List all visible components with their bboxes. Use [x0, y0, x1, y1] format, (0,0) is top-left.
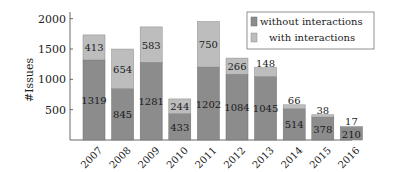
- value-label-without: 378: [313, 124, 332, 135]
- value-label-without: 1084: [224, 102, 249, 113]
- value-label-with: 583: [142, 40, 161, 51]
- value-label-without: 433: [170, 122, 189, 133]
- chart-canvas: 500100015002000#Issues131941320078456542…: [0, 0, 399, 172]
- value-label-without: 210: [342, 129, 361, 140]
- x-tick-label: 2015: [307, 145, 333, 171]
- x-tick-label: 2011: [193, 145, 219, 171]
- value-label-with: 38: [316, 105, 329, 116]
- x-tick-label: 2009: [136, 145, 162, 171]
- legend-label-with: with interactions: [269, 32, 355, 43]
- value-label-with: 413: [84, 42, 103, 53]
- bar-with-interactions: [255, 68, 277, 77]
- y-axis-label: #Issues: [23, 58, 36, 102]
- x-tick-label: 2007: [79, 145, 105, 171]
- x-tick-label: 2010: [164, 145, 190, 171]
- stacked-bar-chart: 500100015002000#Issues131941320078456542…: [0, 0, 399, 172]
- legend-label-without: without interactions: [260, 16, 363, 27]
- value-label-without: 514: [285, 119, 304, 130]
- value-label-with: 17: [345, 116, 358, 127]
- x-tick-label: 2012: [222, 145, 248, 171]
- value-label-with: 750: [199, 39, 218, 50]
- value-label-without: 845: [113, 109, 132, 120]
- value-label-with: 148: [256, 58, 275, 69]
- value-label-without: 1281: [138, 96, 163, 107]
- x-tick-label: 2016: [336, 145, 362, 171]
- value-label-without: 1319: [81, 95, 106, 106]
- y-tick-label: 1000: [38, 73, 66, 86]
- y-tick-label: 1500: [38, 43, 66, 56]
- x-tick-label: 2008: [107, 145, 133, 171]
- value-label-without: 1202: [196, 99, 221, 110]
- legend-swatch-without: [251, 17, 257, 26]
- x-tick-label: 2013: [250, 145, 276, 171]
- value-label-with: 266: [227, 61, 246, 72]
- value-label-with: 66: [288, 95, 301, 106]
- y-tick-label: 2000: [38, 13, 66, 26]
- value-label-with: 244: [170, 101, 189, 112]
- x-tick-label: 2014: [279, 145, 305, 171]
- value-label-with: 654: [113, 64, 132, 75]
- legend-swatch-with: [251, 33, 257, 42]
- value-label-without: 1045: [253, 103, 278, 114]
- y-tick-label: 500: [45, 104, 66, 117]
